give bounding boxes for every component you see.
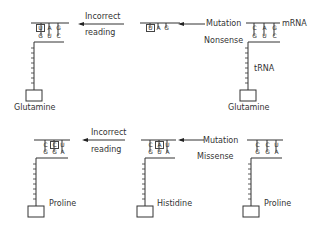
trna-nucleotide: G xyxy=(42,149,49,155)
trna-nucleotide: U xyxy=(156,149,163,155)
incorrect-reading-label-line1: Incorrect xyxy=(91,128,126,137)
mrna-nucleotide: G xyxy=(55,25,62,31)
trna-nucleotide: A xyxy=(273,149,280,155)
trna-nucleotide: G xyxy=(147,149,154,155)
trna-nucleotide: G xyxy=(37,33,44,39)
amino-acid-label: Histidine xyxy=(157,199,192,208)
mrna-nucleotide: G xyxy=(271,25,278,31)
nonsense-label: Nonsense xyxy=(204,36,243,45)
amino-acid-label: Proline xyxy=(49,199,76,208)
mrna-nucleotide: A xyxy=(46,25,53,31)
mrna-label: mRNA xyxy=(282,19,307,28)
incorrect-reading-label-line1: Incorrect xyxy=(85,12,120,21)
mutation-label: Mutation xyxy=(203,136,238,145)
mrna-nucleotide: A xyxy=(261,25,268,31)
trna-nucleotide: U xyxy=(261,33,268,39)
mrna-nucleotide: A xyxy=(155,25,162,31)
incorrect-reading-label-line2: reading xyxy=(91,145,121,154)
trna-nucleotide: A xyxy=(164,149,171,155)
mrna-nucleotide-boxed: U xyxy=(147,25,154,31)
mutation-label: Mutation xyxy=(206,19,241,28)
trna-nucleotide: G xyxy=(264,149,271,155)
trna-nucleotide: U xyxy=(46,33,53,39)
incorrect-reading-label-line2: reading xyxy=(85,28,115,37)
trna-nucleotide: C xyxy=(55,33,62,39)
trna-label: tRNA xyxy=(254,64,274,73)
trna-nucleotide: G xyxy=(254,149,261,155)
amino-acid-label: Glutamine xyxy=(14,103,56,112)
trna-nucleotide: A xyxy=(59,149,66,155)
missense-label: Missense xyxy=(197,152,234,161)
trna-nucleotide: C xyxy=(271,33,278,39)
amino-acid-label: Proline xyxy=(264,199,291,208)
mrna-nucleotide: C xyxy=(251,25,258,31)
mrna-nucleotide-boxed: U xyxy=(37,25,44,31)
amino-acid-label: Glutamine xyxy=(228,103,270,112)
trna-nucleotide: G xyxy=(251,33,258,39)
mrna-nucleotide: G xyxy=(163,25,170,31)
trna-nucleotide: G xyxy=(51,149,58,155)
